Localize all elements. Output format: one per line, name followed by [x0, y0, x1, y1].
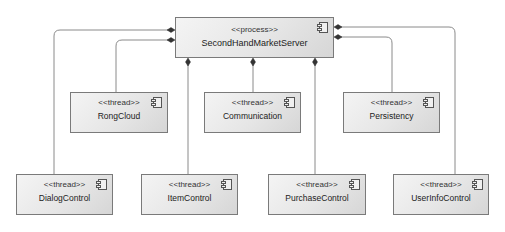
node-purchasecontrol[interactable]: <<thread>> PurchaseControl	[268, 174, 366, 215]
composition-diamond-icon	[334, 35, 342, 40]
component-icon	[317, 22, 328, 33]
node-name: RongCloud	[71, 111, 167, 122]
node-persistency[interactable]: <<thread>> Persistency	[343, 92, 440, 133]
node-name: Persistency	[344, 111, 439, 122]
node-rongcloud[interactable]: <<thread>> RongCloud	[70, 92, 168, 133]
component-icon	[423, 97, 434, 108]
diagram-canvas: <<process>> SecondHandMarketServer <<thr…	[0, 0, 505, 232]
node-userinfocontrol[interactable]: <<thread>> UserInfoControl	[393, 174, 489, 215]
node-name: UserInfoControl	[394, 193, 488, 204]
connector-persistency	[341, 37, 392, 92]
composition-diamond-icon	[167, 28, 175, 33]
component-icon	[221, 179, 232, 190]
composition-diamond-icon	[313, 58, 318, 66]
node-name: DialogControl	[17, 193, 112, 204]
connector-rongcloud	[116, 40, 169, 92]
composition-diamond-icon	[251, 58, 256, 66]
component-icon	[151, 97, 162, 108]
component-icon	[284, 97, 295, 108]
composition-diamond-icon	[186, 58, 191, 66]
node-itemcontrol[interactable]: <<thread>> ItemControl	[141, 174, 238, 215]
node-name: PurchaseControl	[269, 193, 365, 204]
node-name: ItemControl	[142, 193, 237, 204]
node-name: Communication	[205, 111, 300, 122]
node-dialogcontrol[interactable]: <<thread>> DialogControl	[16, 174, 113, 215]
component-icon	[96, 179, 107, 190]
node-stereotype: <<process>>	[176, 25, 333, 35]
node-name: SecondHandMarketServer	[176, 38, 333, 49]
node-communication[interactable]: <<thread>> Communication	[204, 92, 301, 133]
component-icon	[349, 179, 360, 190]
composition-diamond-icon	[167, 38, 175, 43]
component-icon	[472, 179, 483, 190]
composition-diamond-icon	[334, 25, 342, 30]
node-secondhandmarketserver[interactable]: <<process>> SecondHandMarketServer	[175, 17, 334, 58]
